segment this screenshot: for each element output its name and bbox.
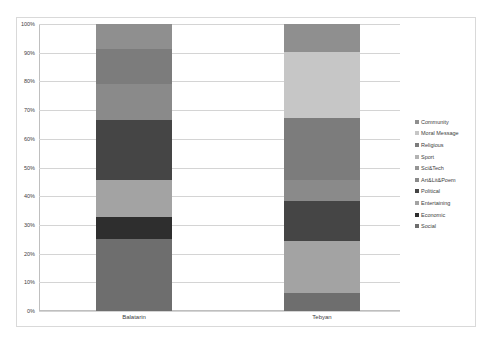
bar-balatarin[interactable] — [96, 24, 172, 311]
legend-swatch-icon — [415, 166, 419, 170]
bar-segment-social[interactable] — [284, 293, 360, 311]
legend-label: Religious — [421, 142, 444, 148]
legend-swatch-icon — [415, 131, 419, 135]
legend-label: Social — [421, 223, 436, 229]
bar-segment-community[interactable] — [96, 24, 172, 49]
bar-segment-religious[interactable] — [284, 118, 360, 180]
legend-item[interactable]: Sci&Tech — [415, 162, 485, 174]
bar-segment-entertaining[interactable] — [284, 241, 360, 294]
legend-swatch-icon — [415, 155, 419, 159]
y-tick-label: 20% — [5, 251, 35, 257]
legend-item[interactable]: Social — [415, 220, 485, 232]
legend-label: Entertaining — [421, 200, 450, 206]
y-tick-label: 40% — [5, 193, 35, 199]
x-tick-label: Tebyan — [282, 314, 362, 320]
bar-segment-political[interactable] — [284, 201, 360, 241]
bar-segment-economic[interactable] — [96, 217, 172, 239]
legend-label: Community — [421, 119, 449, 125]
legend-item[interactable]: Religious — [415, 139, 485, 151]
y-tick-label: 70% — [5, 107, 35, 113]
bar-segment-entertaining[interactable] — [96, 180, 172, 216]
legend-label: Sport — [421, 154, 434, 160]
legend-item[interactable]: Community — [415, 116, 485, 128]
legend-label: Sci&Tech — [421, 165, 444, 171]
legend-item[interactable]: Art&Lit&Poem — [415, 174, 485, 186]
y-tick-label: 30% — [5, 222, 35, 228]
bar-segment-art-lit-poem[interactable] — [96, 84, 172, 120]
y-tick-label: 90% — [5, 50, 35, 56]
x-tick-label: Balatarin — [94, 314, 174, 320]
legend-swatch-icon — [415, 120, 419, 124]
legend-item[interactable]: Sport — [415, 151, 485, 163]
legend-swatch-icon — [415, 143, 419, 147]
y-tick-label: 80% — [5, 78, 35, 84]
legend-label: Political — [421, 188, 440, 194]
gridline — [39, 311, 400, 312]
bar-segment-political[interactable] — [96, 120, 172, 180]
legend-swatch-icon — [415, 224, 419, 228]
bar-segment-moral-message[interactable] — [284, 52, 360, 118]
legend-item[interactable]: Political — [415, 186, 485, 198]
legend-item[interactable]: Economic — [415, 209, 485, 221]
legend-item[interactable]: Entertaining — [415, 197, 485, 209]
y-tick-label: 50% — [5, 165, 35, 171]
legend-swatch-icon — [415, 178, 419, 182]
bar-segment-religious[interactable] — [96, 49, 172, 84]
legend-swatch-icon — [415, 189, 419, 193]
legend-swatch-icon — [415, 213, 419, 217]
legend-label: Economic — [421, 212, 445, 218]
y-tick-label: 60% — [5, 136, 35, 142]
legend-swatch-icon — [415, 201, 419, 205]
y-tick-label: 10% — [5, 279, 35, 285]
y-tick-label: 100% — [5, 21, 35, 27]
bar-tebyan[interactable] — [284, 24, 360, 311]
legend-label: Moral Message — [421, 130, 459, 136]
bar-segment-art-lit-poem[interactable] — [284, 180, 360, 201]
bar-segment-social[interactable] — [96, 239, 172, 311]
y-tick-label: 0% — [5, 308, 35, 314]
legend: CommunityMoral MessageReligiousSportSci&… — [415, 116, 485, 232]
legend-item[interactable]: Moral Message — [415, 128, 485, 140]
plot-area — [39, 24, 400, 311]
bar-segment-community[interactable] — [284, 24, 360, 52]
legend-label: Art&Lit&Poem — [421, 177, 456, 183]
